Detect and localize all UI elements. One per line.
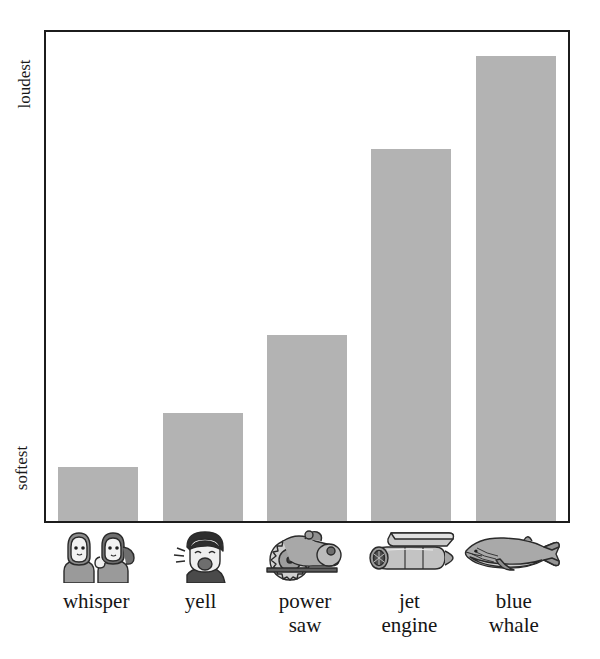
category-label-jet-engine-line1: jet (399, 589, 420, 613)
y-axis-label-softest-text: softest (12, 446, 32, 490)
category-jet-engine: jet engine (357, 525, 461, 637)
plot-area (46, 32, 568, 521)
category-label-yell-line1: yell (185, 589, 217, 613)
category-label-power-saw-line2: saw (253, 613, 357, 637)
category-yell: yell (148, 525, 252, 613)
two-people-whispering-icon (44, 525, 148, 583)
plot-frame (44, 30, 570, 523)
category-label-blue-whale: blue whale (462, 589, 566, 637)
bar-blue-whale (476, 56, 556, 521)
category-label-yell: yell (148, 589, 252, 613)
bar-power-saw (267, 335, 347, 521)
category-label-blue-whale-line1: blue (496, 589, 532, 613)
category-power-saw: power saw (253, 525, 357, 637)
category-label-power-saw: power saw (253, 589, 357, 637)
category-label-power-saw-line1: power (279, 589, 331, 613)
bar-whisper (58, 467, 138, 521)
category-label-whisper: whisper (44, 589, 148, 613)
jet-engine-icon (357, 525, 461, 583)
shouting-person-icon (148, 525, 252, 583)
y-axis-label-loudest-text: loudest (15, 59, 35, 108)
category-label-jet-engine: jet engine (357, 589, 461, 637)
category-axis: whisper (44, 525, 570, 659)
y-axis-label-loudest: loudest (0, 48, 40, 128)
category-blue-whale: blue whale (462, 525, 566, 637)
category-label-whisper-line1: whisper (63, 589, 130, 613)
y-axis-label-softest: softest (0, 432, 40, 512)
category-label-jet-engine-line2: engine (357, 613, 461, 637)
blue-whale-icon (462, 525, 566, 583)
bar-jet-engine (371, 149, 451, 521)
page-title: to Loudest (0, 0, 600, 6)
bar-yell (163, 413, 243, 521)
category-label-blue-whale-line2: whale (462, 613, 566, 637)
circular-saw-icon (253, 525, 357, 583)
category-whisper: whisper (44, 525, 148, 613)
